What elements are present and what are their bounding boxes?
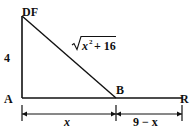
label-ab-length: x [63, 115, 70, 129]
diagram-canvas: DF 4 A B R x 2 + 16 x 9 − x [0, 0, 193, 129]
segment-df-b [22, 16, 116, 98]
label-point-r: R [180, 92, 189, 106]
label-hypotenuse: x 2 + 16 [72, 37, 116, 54]
label-br-length: 9 − x [133, 115, 158, 129]
dimension-lines [22, 105, 182, 121]
hypotenuse-exponent: 2 [89, 38, 93, 46]
hypotenuse-constant: + 16 [94, 39, 116, 53]
label-vertical-length: 4 [4, 51, 10, 65]
label-point-b: B [116, 83, 124, 97]
label-point-a: A [4, 92, 13, 106]
label-point-df: DF [22, 5, 38, 19]
hypotenuse-variable: x [81, 39, 88, 53]
